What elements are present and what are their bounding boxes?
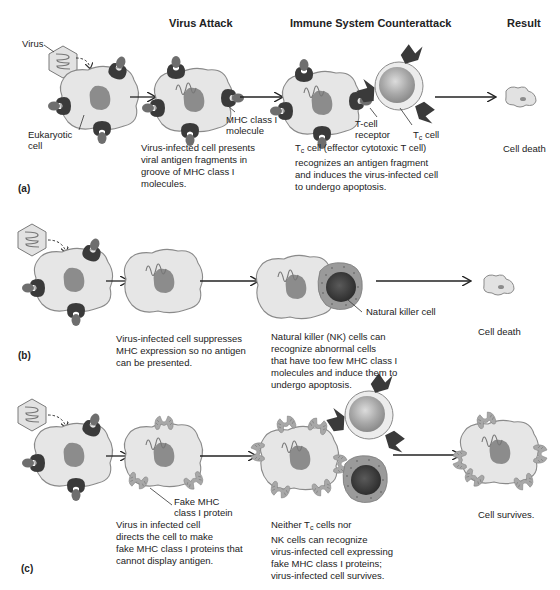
infected-cell-no-mhc-icon [124,249,202,312]
panel-c-attack-description: Virus in infected cell directs the cell … [116,519,266,567]
infected-cell-fake-mhc-icon [124,416,205,492]
panel-b-attack-description: Virus-infected cell suppresses MHC expre… [116,333,266,369]
eukaryotic-cell-label: Eukaryotic cell [28,129,72,151]
panel-a-attack-description: Virus-infected cell presents viral antig… [141,142,291,190]
tc-cell-icon [353,43,436,123]
panel-b-artwork [18,224,514,326]
virus-icon [18,224,46,256]
panel-c-artwork [18,372,547,505]
mhc-class-i-label: MHC class I molecule [226,114,277,136]
panel-c-label: (c) [21,563,33,574]
surviving-cell-icon [453,410,547,491]
nk-cell-icon [318,263,362,310]
header-virus-attack: Virus Attack [169,17,233,29]
virus-icon [18,399,46,431]
header-result: Result [507,17,541,29]
fake-mhc-label: Fake MHC class I protein [174,496,233,518]
tc-cell-label: Tc cell [413,129,439,143]
panel-c-counterattack-description: Neither Tc cells nor NK cells can recogn… [271,519,411,582]
panel-b-counterattack-description: Natural killer (NK) cells can recognize … [271,331,411,391]
panel-a-label: (a) [18,183,30,194]
natural-killer-cell-label: Natural killer cell [366,306,436,317]
panel-a-artwork [44,43,536,149]
dead-cell-icon [484,275,514,295]
diagram-artwork [0,0,560,590]
tcell-receptor-label: T-cell receptor [355,118,390,140]
header-immune-counterattack: Immune System Counterattack [290,17,451,29]
dead-cell-icon [506,87,536,107]
panel-b-result: Cell death [478,326,521,337]
panel-b-label: (b) [18,350,31,361]
panel-c-result: Cell survives. [478,509,535,520]
panel-a-result: Cell death [503,143,546,154]
virus-label: Virus [22,38,43,49]
nk-cell-icon [343,456,387,503]
panel-a-counterattack-description: Tc cell (effector cytotoxic T cell) reco… [295,142,495,193]
